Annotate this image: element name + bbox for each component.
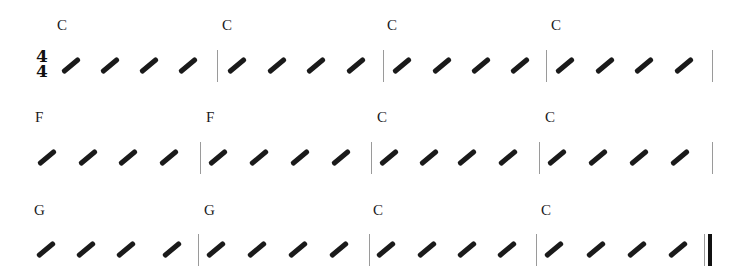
slash-beat [668,241,688,259]
slash-beat [471,57,491,75]
slash-beat [306,57,326,75]
barline [217,50,218,82]
barline [712,142,713,174]
slash-beat [329,241,349,259]
slash-beat [498,149,518,167]
chord-symbol: F [35,110,43,125]
slash-beat [208,149,228,167]
slash-beat [159,149,179,167]
barline [369,234,370,266]
slash-beat [116,241,136,259]
barline [539,142,540,174]
chord-symbol: C [57,18,67,33]
barline [712,50,713,82]
slash-beat [634,57,654,75]
slash-beat [288,241,308,259]
slash-beat [417,241,437,259]
slash-beat [419,149,439,167]
slash-beat [118,149,138,167]
chord-symbol: F [206,110,214,125]
chord-symbol: C [222,18,232,33]
chord-symbol: C [387,18,397,33]
final-barline-thick [708,234,712,266]
slash-beat [510,57,530,75]
slash-beat [497,241,517,259]
slash-beat [247,241,267,259]
slash-beat [555,57,575,75]
slash-beat [544,241,564,259]
slash-beat [379,149,399,167]
barline [546,50,547,82]
slash-beat [376,241,396,259]
slash-beat [588,149,608,167]
slash-beat [331,149,351,167]
slash-beat [267,57,287,75]
slash-beat [629,149,649,167]
barline [536,234,537,266]
slash-beat [595,57,615,75]
slash-beat [627,241,647,259]
lead-sheet: 4 4 C C C C F F C C [0,0,749,280]
slash-beat [178,57,198,75]
slash-beat [290,149,310,167]
slash-beat [76,241,96,259]
slash-beat [457,241,477,259]
slash-beat [547,149,567,167]
chord-symbol: G [34,203,45,218]
slash-beat [139,57,159,75]
slash-beat [162,241,182,259]
barline [198,234,199,266]
slash-beat [586,241,606,259]
slash-beat [36,241,56,259]
chord-symbol: C [551,18,561,33]
chord-symbol: C [545,110,555,125]
slash-beat [78,149,98,167]
slash-beat [227,57,247,75]
slash-beat [37,149,57,167]
time-signature-denominator: 4 [35,64,49,79]
chord-symbol: C [541,203,551,218]
final-barline-thin [704,234,705,266]
slash-beat [249,149,269,167]
chord-symbol: C [377,110,387,125]
slash-beat [392,57,412,75]
slash-beat [670,149,690,167]
barline [371,142,372,174]
slash-beat [100,57,120,75]
slash-beat [674,57,694,75]
barline [200,142,201,174]
chord-symbol: C [373,203,383,218]
slash-beat [61,57,81,75]
barline [383,50,384,82]
chord-symbol: G [204,203,215,218]
slash-beat [206,241,226,259]
slash-beat [346,57,366,75]
slash-beat [432,57,452,75]
time-signature: 4 4 [35,49,49,79]
slash-beat [457,149,477,167]
